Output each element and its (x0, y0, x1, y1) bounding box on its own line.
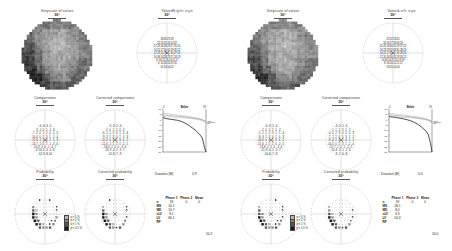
svg-text:-15: -15 (158, 135, 162, 138)
svg-text:-8: -8 (52, 148, 55, 152)
svg-text:1: 1 (275, 131, 277, 135)
svg-text:2: 2 (116, 128, 118, 132)
svg-text:Bebie: Bebie (407, 105, 415, 109)
svg-text:19: 19 (171, 37, 174, 41)
svg-text:25: 25 (403, 51, 406, 55)
svg-text:-4: -4 (126, 131, 129, 135)
svg-text:-1: -1 (336, 145, 339, 149)
svg-text:2: 2 (113, 131, 115, 135)
svg-text:1: 1 (109, 131, 111, 135)
svg-text:3: 3 (339, 131, 341, 135)
svg-text:2: 2 (272, 128, 274, 132)
svg-text:-5: -5 (331, 142, 334, 146)
svg-text:-15: -15 (384, 135, 388, 138)
svg-text:21: 21 (403, 55, 406, 59)
table-cell (194, 220, 205, 224)
corrected-probability-field (304, 180, 378, 251)
svg-text:-3: -3 (40, 145, 43, 149)
svg-text:-20: -20 (158, 140, 162, 143)
svg-text:-1: -1 (331, 128, 334, 132)
svg-text:-7: -7 (278, 148, 281, 152)
comparison-field: -4-3-2-4-20120-2-5-11231-1-4-8-313420-3-… (234, 106, 308, 178)
svg-text:1: 1 (43, 131, 45, 135)
svg-text:-2: -2 (105, 128, 108, 132)
table-cell (390, 220, 405, 224)
svg-text:-4: -4 (328, 131, 331, 135)
plot-title: Greyscale of values (238, 9, 328, 13)
svg-text:-2: -2 (352, 135, 355, 139)
svg-text:3: 3 (342, 128, 344, 132)
svg-text:-9: -9 (119, 152, 122, 156)
cumulative-defect-curve-right: 1050-5-10-15-20-25-300Bebie5995%Normal5% (154, 102, 222, 164)
greyscale-canvas (245, 19, 321, 91)
svg-text:-2: -2 (266, 145, 269, 149)
svg-text:2: 2 (345, 131, 347, 135)
plot-degrees: 30° (304, 174, 378, 178)
plot-degrees: 30° (234, 174, 308, 178)
svg-text:-8: -8 (345, 152, 348, 156)
svg-text:0: 0 (123, 135, 125, 139)
plot-degrees: 30° (234, 100, 308, 104)
comparison-plot-right: Comparisons 30° -6-4-3-5-3-101-1-3-7-201… (8, 96, 82, 166)
table-cell: RF (381, 220, 390, 224)
svg-text:1: 1 (114, 145, 116, 149)
svg-text:15: 15 (174, 61, 177, 65)
svg-text:-10: -10 (48, 152, 52, 156)
corrected-comparison-field: -3-2-1-3-11231-1-4023420-3-7-224531-2-9-… (304, 106, 378, 178)
greyscale-canvas (19, 19, 95, 91)
svg-text:5%: 5% (207, 122, 210, 124)
svg-text:-3: -3 (282, 135, 285, 139)
svg-text:12: 12 (171, 65, 174, 69)
svg-text:0: 0 (389, 105, 391, 109)
table-cell: RF (155, 220, 164, 224)
table-cell (405, 220, 420, 224)
comparison-field: -6-4-3-5-3-101-1-3-7-20120-2-5-10-40231-… (8, 106, 82, 178)
svg-text:1: 1 (109, 135, 111, 139)
svg-text:-6: -6 (280, 145, 283, 149)
table-row: RF (155, 220, 205, 224)
svg-text:-2: -2 (261, 128, 264, 132)
svg-text:59: 59 (203, 105, 206, 109)
plot-title: Values (122, 9, 212, 13)
eye-panel-right: Right eye Greyscale of values 30° Values… (0, 0, 226, 251)
svg-text:0: 0 (118, 145, 120, 149)
svg-text:0: 0 (43, 128, 45, 132)
stats-table-right: Phase 1Phase 2Meann5900MS16.1MD10.7sLV8.… (155, 196, 205, 224)
svg-text:10: 10 (159, 108, 162, 111)
greyscale-plot-right: Greyscale of values 30° (12, 9, 102, 89)
svg-text:0: 0 (39, 135, 41, 139)
corrected-comparison-field: -5-3-2-4-20120-2-6-11231-1-4-9-313420-3-… (78, 106, 152, 178)
plot-degrees: 30° (348, 13, 438, 17)
plot-title: Corrected probability (78, 170, 152, 174)
svg-text:19: 19 (402, 58, 405, 62)
table-cell (164, 220, 179, 224)
svg-text:10: 10 (385, 108, 388, 111)
svg-text:59: 59 (429, 105, 432, 109)
greyscale-plot-left: Greyscale of values 30° (238, 9, 328, 89)
svg-text:0: 0 (335, 142, 337, 146)
values-field: 1820211922242526242217232628292725201421… (122, 19, 212, 91)
svg-text:3: 3 (345, 135, 347, 139)
values-plot-right: Values 30° 18202119222425262422172326282… (122, 9, 212, 89)
svg-text:1: 1 (49, 135, 51, 139)
plot-degrees: 30° (78, 100, 152, 104)
svg-text:0: 0 (279, 135, 281, 139)
svg-text:-1: -1 (105, 131, 108, 135)
svg-text:22: 22 (174, 41, 177, 45)
svg-text:-1: -1 (109, 142, 112, 146)
svg-text:24: 24 (400, 41, 403, 45)
svg-text:0: 0 (163, 105, 165, 109)
stats-footer-right: 10.2 (206, 232, 212, 236)
svg-text:-1: -1 (265, 142, 268, 146)
duration-value-left: 5:4 (418, 172, 423, 176)
plot-degrees: 30° (122, 13, 212, 17)
svg-text:-3: -3 (126, 135, 129, 139)
svg-text:-2: -2 (35, 131, 38, 135)
svg-text:1: 1 (345, 142, 347, 146)
svg-text:0: 0 (39, 131, 41, 135)
svg-text:2: 2 (339, 128, 341, 132)
svg-text:-3: -3 (105, 135, 108, 139)
svg-text:-2: -2 (331, 135, 334, 139)
values-field: 2122232124262728262420252830312927221623… (348, 19, 438, 91)
svg-text:2: 2 (46, 131, 48, 135)
